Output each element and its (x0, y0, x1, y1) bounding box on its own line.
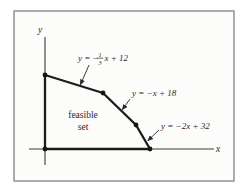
figure-frame (14, 11, 234, 181)
vertex-dot-x-intercept (148, 147, 153, 152)
y-axis-label: y (37, 25, 43, 35)
equation-1-fraction-numerator: 1 (98, 51, 101, 58)
equation-label-3: y = −2x + 32 (160, 121, 210, 131)
feasible-set-diagram: y = − 1 3 x + 12 y = −x + 18 y = −2x + 3… (0, 0, 247, 191)
equation-1-prefix: y = − (77, 53, 99, 63)
vertex-dot-y-intercept (43, 73, 48, 78)
equation-label-2: y = −x + 18 (131, 88, 177, 98)
equation-1-fraction-denominator: 3 (97, 59, 101, 66)
textbook-figure-page: y = − 1 3 x + 12 y = −x + 18 y = −2x + 3… (0, 0, 247, 191)
region-label-line1: feasible (68, 110, 98, 120)
x-axis-label: x (215, 144, 221, 154)
vertex-dot-middle-upper (101, 91, 106, 96)
equation-1-suffix: x + 12 (104, 53, 129, 63)
region-label-line2: set (78, 122, 89, 132)
vertex-dot-middle-lower (134, 123, 139, 128)
vertex-dot-origin (43, 147, 48, 152)
